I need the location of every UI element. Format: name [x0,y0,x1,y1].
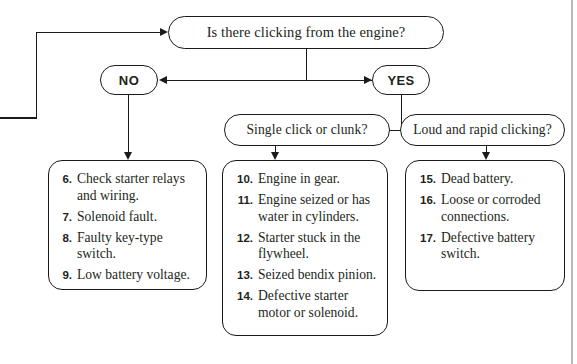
list-item-number: 7. [59,209,72,224]
node-branch-yes[interactable]: YES [372,65,430,95]
list-single-click-causes[interactable]: 10. Engine in gear. 11. Engine seized or… [222,160,388,336]
list-loud-clicking-causes-items: 15. Dead battery. 16. Loose or corroded … [416,171,556,263]
list-item-text: Defective battery switch. [436,230,556,263]
list-loud-clicking-causes[interactable]: 15. Dead battery. 16. Loose or corroded … [405,160,565,291]
list-no-causes-items: 6. Check starter relays and wiring. 7. S… [59,171,198,284]
connector-single-click-to-list-arrowhead [271,152,279,160]
list-item: 14. Defective starter motor or solenoid. [233,288,379,321]
node-subquestion-loud-clicking-label: Loud and rapid clicking? [413,122,552,138]
list-item-number: 6. [59,171,72,186]
node-subquestion-loud-clicking[interactable]: Loud and rapid clicking? [400,114,565,146]
list-item-number: 11. [233,192,253,207]
connector-entry-horizontal-upper [36,32,162,34]
list-item-number: 14. [233,288,253,303]
list-item-text: Engine in gear. [253,171,340,188]
list-item-number: 13. [233,267,253,282]
list-item: 8. Faulty key-type switch. [59,230,198,263]
node-subquestion-single-click-label: Single click or clunk? [246,122,367,138]
connector-yes-arrowhead [364,76,372,84]
connector-branch-bus [166,80,372,82]
connector-no-to-list [128,95,130,153]
list-item-text: Solenoid fault. [72,209,157,226]
node-root-question-label: Is there clicking from the engine? [207,24,406,41]
list-item: 6. Check starter relays and wiring. [59,171,198,204]
list-item: 13. Seized bendix pinion. [233,267,379,284]
list-item-number: 9. [59,267,72,282]
list-item-number: 12. [233,230,253,245]
connector-no-to-list-arrowhead [124,152,132,160]
node-branch-no-label: NO [119,73,139,88]
list-single-click-causes-items: 10. Engine in gear. 11. Engine seized or… [233,171,379,322]
list-item: 12. Starter stuck in the flywheel. [233,230,379,263]
connector-root-stem [306,49,308,80]
list-item-text: Low battery voltage. [72,267,190,284]
list-item: 16. Loose or corroded connections. [416,192,556,225]
node-root-question[interactable]: Is there clicking from the engine? [168,16,444,49]
flowchart-canvas: Is there clicking from the engine? NO YE… [0,0,577,364]
list-no-causes[interactable]: 6. Check starter relays and wiring. 7. S… [48,160,207,290]
connector-loud-clicking-to-list-arrowhead [482,152,490,160]
list-item: 10. Engine in gear. [233,171,379,188]
list-item-text: Seized bendix pinion. [253,267,376,284]
list-item: 17. Defective battery switch. [416,230,556,263]
list-item-text: Faulty key-type switch. [72,230,198,263]
list-item-text: Dead battery. [436,171,513,188]
connector-entry-horizontal-lower [0,117,37,119]
list-item-text: Starter stuck in the flywheel. [253,230,379,263]
connector-entry-arrowhead [160,28,168,36]
list-item: 11. Engine seized or has water in cylind… [233,192,379,225]
list-item-number: 8. [59,230,72,245]
node-branch-no[interactable]: NO [100,65,158,95]
node-subquestion-single-click[interactable]: Single click or clunk? [224,114,390,146]
list-item-text: Engine seized or has water in cylinders. [253,192,379,225]
list-item-number: 10. [233,171,253,186]
list-item-text: Defective starter motor or solenoid. [253,288,379,321]
list-item: 7. Solenoid fault. [59,209,198,226]
connector-entry-vertical [36,32,38,118]
list-item: 15. Dead battery. [416,171,556,188]
page-edge-rule [571,0,573,364]
node-branch-yes-label: YES [387,73,414,88]
list-item-text: Check starter relays and wiring. [72,171,198,204]
list-item: 9. Low battery voltage. [59,267,198,284]
connector-no-arrowhead [159,76,167,84]
list-item-text: Loose or corroded connections. [436,192,556,225]
list-item-number: 16. [416,192,436,207]
list-item-number: 15. [416,171,436,186]
list-item-number: 17. [416,230,436,245]
